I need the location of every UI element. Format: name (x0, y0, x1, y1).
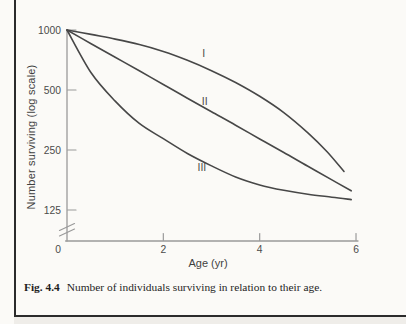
y-tick-label: 250 (44, 145, 61, 156)
survivorship-chart: 10005002501250246IIIIII (0, 0, 406, 324)
y-tick-label: 125 (44, 205, 61, 216)
curve-label-I: I (202, 47, 205, 59)
figure-caption: Fig. 4.4Number of individuals surviving … (24, 280, 398, 294)
curve-label-III: III (197, 161, 206, 173)
x-tick-label: 2 (160, 244, 166, 255)
curve-II (67, 30, 351, 191)
figure-number: Fig. 4.4 (24, 281, 60, 293)
scanned-book-figure: 10005002501250246IIIIII Number surviving… (0, 0, 406, 324)
curve-label-II: II (202, 95, 208, 107)
x-tick-label: 6 (353, 244, 359, 255)
x-tick-label: 0 (55, 244, 61, 255)
x-tick-label: 4 (257, 244, 263, 255)
y-tick-label: 500 (44, 85, 61, 96)
figure-caption-text: Number of individuals surviving in relat… (67, 281, 322, 293)
x-axis-title: Age (yr) (188, 257, 227, 269)
y-tick-label: 1000 (38, 25, 61, 36)
y-axis-title: Number surviving (log scale) (25, 65, 37, 210)
curve-III (67, 30, 351, 200)
